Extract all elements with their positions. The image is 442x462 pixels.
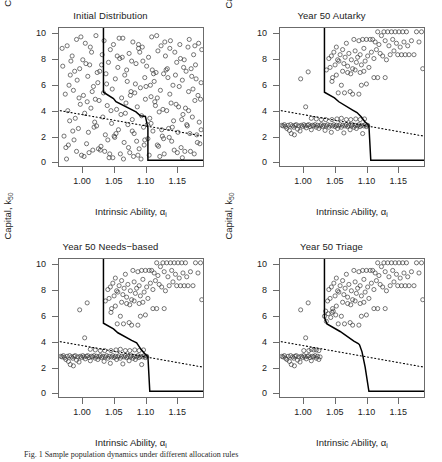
data-point <box>63 92 67 96</box>
data-point <box>126 145 130 149</box>
data-point <box>367 65 371 69</box>
data-point <box>179 145 183 149</box>
data-point <box>103 133 107 137</box>
data-point <box>166 76 170 80</box>
data-point <box>330 79 334 83</box>
data-point <box>84 62 88 66</box>
data-point <box>402 271 406 275</box>
data-point <box>377 273 381 277</box>
y-axis-label-text: Capital, k <box>223 200 234 240</box>
data-point <box>174 102 178 106</box>
data-point <box>75 78 79 82</box>
data-point <box>123 272 127 276</box>
data-point <box>327 287 331 291</box>
data-point <box>387 44 391 48</box>
data-point <box>417 271 421 275</box>
data-point <box>159 44 163 48</box>
data-point <box>329 130 333 134</box>
data-point <box>88 45 92 49</box>
data-point <box>346 64 350 68</box>
data-point <box>124 101 128 105</box>
data-point <box>175 151 179 155</box>
y-axis-tick-label: 0 <box>24 157 46 167</box>
x-axis-label: Intrinsic Ability, αi <box>58 206 204 218</box>
x-axis-tick-label: 1.05 <box>320 407 350 417</box>
data-point <box>412 284 416 288</box>
data-point <box>362 277 366 281</box>
data-point <box>79 153 83 157</box>
data-point <box>152 79 156 83</box>
data-point <box>341 48 345 52</box>
data-point <box>394 272 398 276</box>
data-point <box>91 148 95 152</box>
data-point <box>160 285 164 289</box>
x-axis-label-subscript: i <box>165 211 167 218</box>
data-point <box>118 347 122 351</box>
data-point <box>113 77 117 81</box>
data-point <box>60 46 64 50</box>
scatter-plot <box>59 28 203 166</box>
y-axis-tick-label: 4 <box>24 106 46 116</box>
data-point <box>65 44 69 48</box>
data-point <box>361 132 365 136</box>
data-point <box>76 126 80 130</box>
data-point <box>110 87 114 91</box>
data-point <box>198 261 202 265</box>
data-point <box>128 93 132 97</box>
data-point <box>171 83 175 87</box>
data-point <box>133 82 137 86</box>
data-point <box>175 60 179 64</box>
data-point <box>170 139 174 143</box>
x-axis-label-text: Intrinsic Ability, α <box>316 206 386 217</box>
data-point <box>181 112 185 116</box>
data-point <box>336 91 340 95</box>
data-point <box>148 281 152 285</box>
data-point <box>105 104 109 108</box>
data-point <box>391 37 395 41</box>
y-axis-tick-label: 6 <box>245 80 267 90</box>
data-point <box>188 270 192 274</box>
data-point <box>128 151 132 155</box>
data-point <box>363 59 367 63</box>
data-point <box>140 45 144 49</box>
panel-year-50-triage: Year 50 TriageCapital, k50Intrinsic Abil… <box>221 231 442 462</box>
data-point <box>187 90 191 94</box>
data-point <box>351 92 355 96</box>
data-point <box>112 294 116 298</box>
data-point <box>349 289 353 293</box>
data-point <box>376 261 380 265</box>
y-axis-tick-label: 6 <box>245 311 267 321</box>
x-axis-label-text: Intrinsic Ability, α <box>95 206 165 217</box>
plot-area <box>58 258 204 398</box>
data-point <box>353 49 357 53</box>
data-point <box>336 322 340 326</box>
data-point <box>108 152 112 156</box>
data-point <box>373 271 377 275</box>
x-axis-tick-label: 1.15 <box>383 176 413 186</box>
data-point <box>348 321 352 325</box>
data-point <box>116 65 120 69</box>
data-point <box>84 142 88 146</box>
data-point <box>128 289 132 293</box>
data-point <box>132 280 136 284</box>
data-point <box>398 276 402 280</box>
y-axis-tick-label: 8 <box>245 285 267 295</box>
data-point <box>115 54 119 58</box>
data-point <box>188 149 192 153</box>
data-point <box>187 37 191 41</box>
data-point <box>153 279 157 283</box>
data-point <box>367 296 371 300</box>
data-point <box>372 56 376 60</box>
data-point <box>346 295 350 299</box>
scatter-points <box>59 261 203 368</box>
x-axis-tick-label: 1.10 <box>131 176 161 186</box>
data-point <box>142 143 146 147</box>
data-point <box>106 60 110 64</box>
data-point <box>378 51 382 55</box>
data-point <box>357 323 361 327</box>
data-point <box>123 73 127 77</box>
data-point <box>62 134 66 138</box>
data-point <box>64 157 68 161</box>
x-axis-tick-mark <box>335 398 336 404</box>
data-point <box>199 128 203 132</box>
